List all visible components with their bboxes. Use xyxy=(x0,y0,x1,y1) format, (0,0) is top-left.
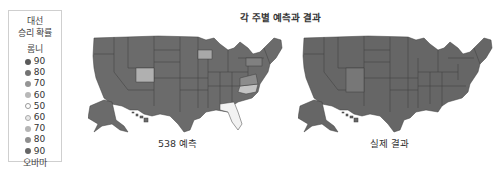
circle-swatch-icon xyxy=(25,126,31,132)
legend-item: 70 xyxy=(9,123,61,134)
legend-item-label: 80 xyxy=(34,134,45,145)
circle-swatch-icon xyxy=(25,92,31,98)
legend-item-label: 50 xyxy=(34,101,45,112)
legend-item-label: 90 xyxy=(34,56,45,67)
state-florida xyxy=(220,102,242,130)
circle-swatch-icon xyxy=(25,81,31,87)
legend-item: 90 xyxy=(9,56,61,67)
legend-item-label: 90 xyxy=(34,146,45,157)
chart-title: 각 주별 예측과 결과 xyxy=(0,10,501,24)
legend-bottom-candidate: 오바마 xyxy=(9,158,61,169)
legend-item: 60 xyxy=(9,112,61,123)
state-pennsylvania xyxy=(246,58,262,66)
legend-item: 80 xyxy=(9,67,61,78)
legend-scale: 90 80 70 60 50 60 70 80 90 xyxy=(9,56,61,157)
legend-item: 70 xyxy=(9,78,61,89)
circle-swatch-icon xyxy=(25,103,31,109)
circle-swatch-icon xyxy=(25,59,31,65)
state-colorado xyxy=(136,68,154,82)
legend-item: 50 xyxy=(9,101,61,112)
legend-top-candidate: 롬니 xyxy=(9,44,61,55)
legend-title-line2: 승리 확률 xyxy=(9,27,61,39)
map-label-actual: 실제 결과 xyxy=(370,136,409,150)
circle-swatch-icon xyxy=(25,115,31,121)
legend-item-label: 60 xyxy=(34,112,45,123)
map-label-forecast: 538 예측 xyxy=(158,136,197,150)
legend-item-label: 60 xyxy=(34,90,45,101)
us-map-forecast xyxy=(88,28,288,138)
legend-item: 80 xyxy=(9,134,61,145)
legend-item: 60 xyxy=(9,90,61,101)
legend-item-label: 70 xyxy=(34,123,45,134)
circle-swatch-icon xyxy=(25,137,31,143)
us-map-actual xyxy=(298,28,498,138)
legend-item-label: 70 xyxy=(34,78,45,89)
state-colorado-newmexico xyxy=(346,68,364,92)
legend-item-label: 80 xyxy=(34,67,45,78)
circle-swatch-icon xyxy=(25,148,31,154)
legend: 대선 승리 확률 롬니 90 80 70 60 50 60 70 80 90 오… xyxy=(8,10,62,162)
legend-item: 90 xyxy=(9,146,61,157)
circle-swatch-icon xyxy=(25,70,31,76)
state-iowa xyxy=(198,50,212,59)
